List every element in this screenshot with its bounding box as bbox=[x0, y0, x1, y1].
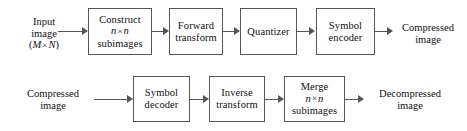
times-symbol: × bbox=[311, 93, 318, 103]
merge-block-size: n×n bbox=[306, 93, 324, 106]
arrow-shaft bbox=[152, 31, 163, 32]
arrow-shaft bbox=[58, 31, 82, 32]
arrow-forward-to-quantizer bbox=[223, 27, 240, 36]
arrow-shaft bbox=[345, 99, 358, 100]
arrow-merge-to-output bbox=[345, 95, 364, 104]
times-symbol: × bbox=[116, 26, 123, 36]
forward-transform-box[interactable]: Forward transform bbox=[169, 8, 223, 55]
inverse-transform-line-1: Inverse bbox=[221, 87, 253, 99]
compressed-output-line-1: Compressed bbox=[393, 22, 463, 34]
arrow-shaft bbox=[375, 31, 387, 32]
block-n-right: n bbox=[124, 25, 129, 36]
forward-transform-line-1: Forward bbox=[178, 20, 214, 32]
arrow-inverse-to-merge bbox=[265, 95, 284, 104]
arrow-shaft bbox=[94, 99, 127, 100]
arrow-construct-to-forward bbox=[152, 27, 169, 36]
block-n-right: n bbox=[318, 93, 323, 104]
inverse-transform-line-2: transform bbox=[216, 99, 258, 111]
compressed-input-line-1: Compressed bbox=[16, 88, 90, 100]
quantizer-box[interactable]: Quantizer bbox=[240, 8, 297, 55]
arrow-shaft bbox=[297, 31, 309, 32]
arrow-head bbox=[309, 27, 315, 35]
construct-line-3: subimages bbox=[97, 38, 142, 50]
construct-block-size: n×n bbox=[111, 25, 129, 38]
arrow-shaft bbox=[265, 99, 278, 100]
merge-subimages-box[interactable]: Merge n×n subimages bbox=[284, 76, 345, 122]
arrow-head bbox=[358, 95, 364, 103]
compressed-output-line-2: image bbox=[393, 34, 463, 46]
symbol-encoder-box[interactable]: Symbol encoder bbox=[316, 8, 375, 55]
arrow-input-to-construct bbox=[58, 27, 88, 36]
arrow-shaft bbox=[190, 99, 203, 100]
symbol-decoder-line-1: Symbol bbox=[145, 87, 178, 99]
decompressed-line-1: Decompressed bbox=[366, 88, 454, 100]
symbol-encoder-line-1: Symbol bbox=[329, 20, 362, 32]
symbol-decoder-box[interactable]: Symbol decoder bbox=[133, 76, 190, 122]
arrow-compressed-to-symbol-decoder bbox=[94, 95, 133, 104]
compressed-image-output-label: Compressed image bbox=[393, 22, 463, 45]
symbol-decoder-line-2: decoder bbox=[145, 99, 179, 111]
inverse-transform-box[interactable]: Inverse transform bbox=[209, 76, 265, 122]
compressed-image-input-label: Compressed image bbox=[16, 88, 90, 111]
forward-transform-line-2: transform bbox=[175, 32, 217, 44]
times-symbol: × bbox=[41, 40, 48, 50]
arrow-symbol-decoder-to-inverse bbox=[190, 95, 209, 104]
decompressed-image-label: Decompressed image bbox=[366, 88, 454, 111]
paren-close: ) bbox=[55, 39, 59, 50]
arrow-symbol-encoder-to-output bbox=[375, 27, 393, 36]
input-image-dimensions: (M×N) bbox=[8, 39, 80, 52]
image-compression-block-diagram: Input image (M×N) Construct n×n subimage… bbox=[0, 0, 467, 131]
arrow-shaft bbox=[223, 31, 234, 32]
construct-line-1: Construct bbox=[99, 14, 141, 26]
symbol-encoder-line-2: encoder bbox=[329, 32, 363, 44]
input-image-line-1: Input bbox=[8, 16, 80, 28]
merge-line-1: Merge bbox=[301, 81, 329, 93]
quantizer-label: Quantizer bbox=[247, 26, 289, 38]
merge-line-3: subimages bbox=[292, 105, 337, 117]
arrow-quantizer-to-symbol-encoder bbox=[297, 27, 315, 36]
compressed-input-line-2: image bbox=[16, 100, 90, 112]
construct-subimages-box[interactable]: Construct n×n subimages bbox=[88, 8, 152, 55]
decompressed-line-2: image bbox=[366, 100, 454, 112]
